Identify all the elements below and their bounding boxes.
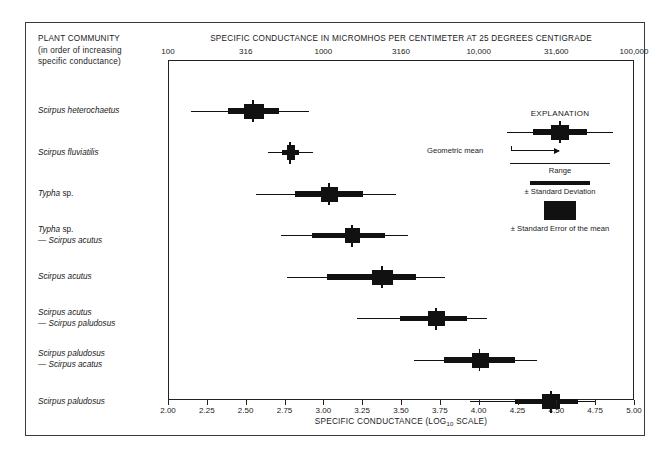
species-name-italic: Scirpus paludosus — [38, 349, 105, 358]
x-axis-tick-label: 3.75 — [432, 406, 448, 415]
species-name-italic: Typha — [38, 189, 60, 198]
geometric-mean-tick — [351, 225, 353, 247]
top-axis-tick-label: 3160 — [392, 47, 410, 56]
species-name-italic: Scirpus acutus — [38, 308, 92, 317]
category-label: Typha sp.— Scirpus acutus — [38, 224, 166, 246]
plant-community-heading: PLANT COMMUNITY (in order of increasing … — [38, 33, 168, 68]
species-qualifier: sp. — [60, 189, 73, 198]
x-axis-tick — [595, 400, 596, 405]
category-label-line-1: Scirpus paludosus — [38, 348, 166, 359]
x-axis-tick — [518, 400, 519, 405]
x-axis-title-pre: SPECIFIC CONDUCTANCE (LOG — [315, 417, 447, 426]
x-axis-title-post: SCALE) — [454, 417, 488, 426]
x-axis-tick-label: 3.50 — [393, 406, 409, 415]
category-label: Scirpus paludosus — [38, 396, 166, 407]
top-axis-tick-label: 100,000 — [620, 47, 649, 56]
category-label: Scirpus acutus— Scirpus paludosus — [38, 307, 166, 329]
geometric-mean-tick — [252, 100, 254, 122]
x-axis-tick — [246, 400, 247, 405]
category-label: Scirpus heterochaetus — [38, 105, 166, 116]
top-axis-tick-label: 31,600 — [544, 47, 568, 56]
category-label-line-1: Scirpus acutus — [38, 271, 166, 282]
x-axis-title: SPECIFIC CONDUCTANCE (LOG10 SCALE) — [168, 417, 634, 426]
category-label: Typha sp. — [38, 188, 166, 199]
data-mark-row — [169, 349, 633, 371]
category-label: Scirpus fluviatilis — [38, 147, 166, 158]
legend-explanation: EXPLANATION Geometric mean Range ± Stand… — [485, 109, 635, 227]
x-axis-tick-label: 2.25 — [199, 406, 215, 415]
x-axis-tick — [362, 400, 363, 405]
x-axis-tick — [634, 400, 635, 405]
x-axis-tick-label: 2.50 — [238, 406, 254, 415]
x-axis-tick-label: 4.75 — [587, 406, 603, 415]
x-axis-tick-label: 4.25 — [510, 406, 526, 415]
species-name-italic: Scirpus fluviatilis — [38, 148, 99, 157]
species-name-italic: Typha — [38, 225, 60, 234]
x-axis-tick — [556, 400, 557, 405]
geometric-mean-tick — [479, 349, 481, 371]
data-mark-row — [169, 266, 633, 288]
category-label-line-1: Scirpus fluviatilis — [38, 147, 166, 158]
species-name-italic: Scirpus heterochaetus — [38, 106, 119, 115]
legend-range-label: Range — [485, 166, 635, 175]
category-label-line-1: Scirpus acutus — [38, 307, 166, 318]
geometric-mean-tick — [289, 142, 291, 164]
chart-title: SPECIFIC CONDUCTANCE IN MICROMHOS PER CE… — [166, 34, 636, 43]
legend-mean-tick — [559, 121, 561, 143]
species-name-italic: Scirpus paludosus — [38, 397, 105, 406]
data-mark-row — [169, 225, 633, 247]
species-name-italic: Scirpus acutus — [38, 272, 92, 281]
top-axis: 1003161000316010,00031,600100,000 — [168, 47, 634, 59]
figure-frame: PLANT COMMUNITY (in order of increasing … — [25, 22, 645, 436]
data-mark-row — [169, 142, 633, 164]
x-axis-tick-label: 2.75 — [277, 406, 293, 415]
x-axis-tick-label: 2.00 — [160, 406, 176, 415]
x-axis-tick — [207, 400, 208, 405]
data-mark-row — [169, 183, 633, 205]
x-axis-tick-label: 3.25 — [354, 406, 370, 415]
category-label-line-1: Scirpus paludosus — [38, 396, 166, 407]
geometric-mean-tick — [381, 266, 383, 288]
x-axis-tick — [285, 400, 286, 405]
category-label-line-2: — Scirpus acatus — [38, 359, 166, 370]
x-axis-tick-label: 3.00 — [316, 406, 332, 415]
heading-line-2: (in order of increasing — [38, 45, 168, 57]
top-axis-tick-label: 10,000 — [466, 47, 490, 56]
data-mark-row — [169, 100, 633, 122]
plot-area: EXPLANATION Geometric mean Range ± Stand… — [168, 60, 634, 400]
x-axis-tick — [401, 400, 402, 405]
legend-symbol: Geometric mean — [485, 122, 635, 142]
geometric-mean-tick — [435, 308, 437, 330]
x-axis-tick — [323, 400, 324, 405]
x-axis-tick — [440, 400, 441, 405]
category-label-line-2: — Scirpus acutus — [38, 235, 166, 246]
category-label: Scirpus acutus — [38, 271, 166, 282]
data-mark-row — [169, 308, 633, 330]
x-axis-tick — [479, 400, 480, 405]
category-label-line-1: Typha sp. — [38, 224, 166, 235]
top-axis-tick-label: 100 — [161, 47, 174, 56]
x-axis-tick-label: 4.00 — [471, 406, 487, 415]
heading-line-3: specific conductance) — [38, 56, 168, 68]
x-axis-tick-label: 5.00 — [626, 406, 642, 415]
top-axis-tick-label: 1000 — [314, 47, 332, 56]
x-axis-tick-label: 4.50 — [549, 406, 565, 415]
x-axis-title-subscript: 10 — [446, 421, 453, 427]
species-qualifier: sp. — [60, 225, 73, 234]
top-axis-tick-label: 316 — [239, 47, 252, 56]
category-label: Scirpus paludosus— Scirpus acatus — [38, 348, 166, 370]
heading-line-1: PLANT COMMUNITY — [38, 33, 168, 45]
category-label-line-2: — Scirpus paludosus — [38, 318, 166, 329]
category-label-line-1: Typha sp. — [38, 188, 166, 199]
category-label-line-1: Scirpus heterochaetus — [38, 105, 166, 116]
x-axis-tick — [168, 400, 169, 405]
geometric-mean-tick — [328, 183, 330, 205]
